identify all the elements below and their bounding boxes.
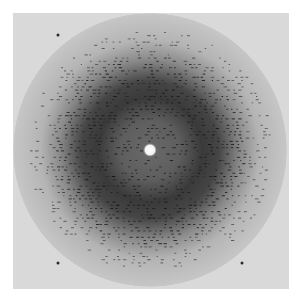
diffraction-pattern [13,13,289,289]
diffraction-detector-area [13,13,289,289]
beam-stop-spot [143,143,157,157]
